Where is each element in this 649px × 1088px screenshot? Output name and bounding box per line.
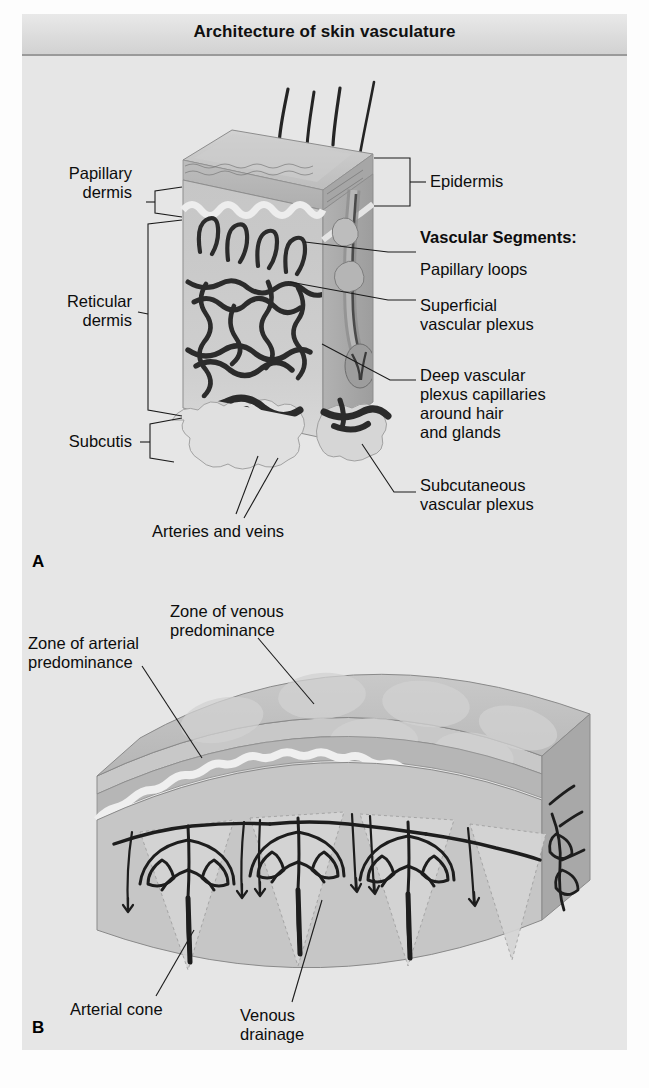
label-zone-of-venous-predominance: Zone of venous predominance [170,602,284,640]
figure-panel: Architecture of skin vasculature [22,14,627,1050]
panel-b-illustration [22,14,627,1050]
label-venous-drainage: Venous drainage [240,1006,304,1044]
label-zone-of-arterial-predominance: Zone of arterial predominance [28,634,139,672]
label-arterial-cone: Arterial cone [70,1000,163,1019]
panel-letter-b: B [32,1018,44,1038]
